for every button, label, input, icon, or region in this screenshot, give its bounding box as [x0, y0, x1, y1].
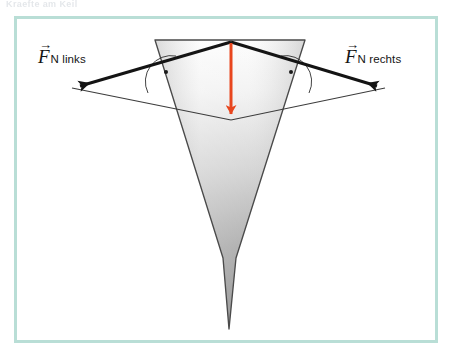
- force-label-left-arrow-accent: →: [39, 38, 51, 51]
- figure-root: Kraefte am Keil: [0, 0, 452, 360]
- force-label-right-subscript: N rechts: [358, 53, 402, 65]
- force-label-right-symbol: →F: [345, 46, 358, 67]
- force-label-left-symbol: →F: [38, 46, 51, 67]
- force-label-left: →FN links: [38, 47, 86, 66]
- right-angle-dot-left: [164, 70, 168, 74]
- right-angle-dot-right: [289, 70, 293, 74]
- force-label-right: →FN rechts: [345, 47, 401, 66]
- force-label-left-subscript: N links: [51, 53, 86, 65]
- force-label-right-arrow-accent: →: [346, 38, 358, 51]
